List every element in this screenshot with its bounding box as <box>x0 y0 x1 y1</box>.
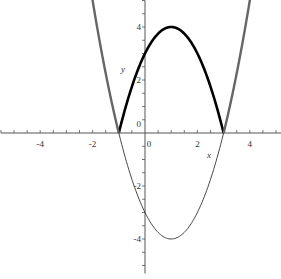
thin-curve <box>100 46 241 239</box>
y-tick-label: -4 <box>134 234 142 244</box>
y-tick-label: -2 <box>134 181 142 191</box>
y-axis-label: y <box>120 64 125 74</box>
curves <box>89 0 254 239</box>
x-tick-label: 4 <box>248 139 253 149</box>
axes <box>1 1 281 274</box>
gray-curve-right <box>224 0 254 133</box>
x-axis-label: x <box>206 150 211 160</box>
x-tick-label: 2 <box>195 139 200 149</box>
bold-curve <box>119 27 224 133</box>
x-tick-label: -4 <box>36 139 44 149</box>
x-tick-label: 0 <box>147 139 152 149</box>
function-plot: -4-2024-4-2024xy <box>0 0 281 279</box>
y-tick-label: 4 <box>137 22 142 32</box>
y-tick-label: 0 <box>137 119 142 129</box>
x-tick-label: -2 <box>89 139 97 149</box>
gray-curve-left <box>89 0 119 133</box>
y-tick-label: 2 <box>137 75 142 85</box>
